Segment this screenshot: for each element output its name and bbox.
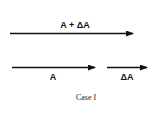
vector-delta-label: ΔA bbox=[121, 72, 134, 82]
vector-a-label: A bbox=[50, 72, 57, 82]
vector-delta: ΔA bbox=[107, 68, 147, 83]
vector-addition-diagram: A + ΔA A ΔA Case I bbox=[0, 0, 155, 117]
vector-a: A bbox=[12, 68, 95, 83]
diagram-caption: Case I bbox=[76, 93, 97, 102]
vector-sum-label: A + ΔA bbox=[60, 20, 90, 30]
vector-sum: A + ΔA bbox=[10, 20, 133, 34]
